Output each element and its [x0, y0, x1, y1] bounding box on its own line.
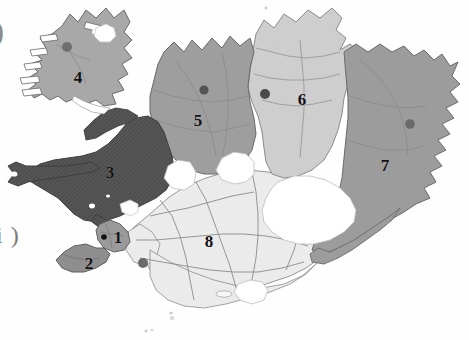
marker-region-5	[199, 85, 208, 94]
caption-fragment-bottom-left: i )	[0, 222, 20, 249]
map-canvas	[0, 0, 469, 340]
marker-region-8	[138, 258, 148, 268]
marker-region-7	[405, 119, 415, 129]
caption-fragment-top-left: )	[0, 14, 5, 48]
marker-capital-region-1	[101, 234, 107, 240]
region-label-1: 1	[114, 229, 123, 246]
region-label-8: 8	[205, 233, 214, 250]
region-label-2: 2	[85, 255, 94, 272]
marker-region-4	[62, 42, 72, 52]
region-4-westfjords	[20, 8, 132, 114]
region-2-reykjanes	[56, 244, 110, 272]
marker-region-6	[260, 89, 270, 99]
region-label-5: 5	[194, 112, 203, 129]
region-label-7: 7	[381, 157, 390, 174]
region-label-3: 3	[106, 164, 115, 181]
iceland-region-map: ) i ) 1 2 3 4 5 6 7 8	[0, 0, 469, 340]
region-label-4: 4	[74, 69, 83, 86]
region-label-6: 6	[298, 91, 307, 108]
